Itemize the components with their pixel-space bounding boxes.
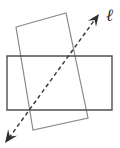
figure-canvas — [0, 0, 120, 148]
geometry-figure: ℓ — [0, 0, 120, 148]
line-label-ell: ℓ — [106, 7, 113, 24]
